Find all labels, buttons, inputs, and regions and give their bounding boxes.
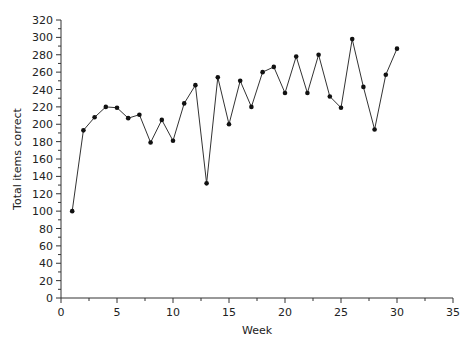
y-tick-label: 100 — [32, 205, 53, 218]
data-point-marker — [272, 65, 277, 70]
data-series — [70, 37, 399, 214]
y-axis: 0204060801001201401601802002202402602803… — [32, 14, 61, 305]
data-point-marker — [283, 91, 288, 96]
data-point-marker — [260, 70, 265, 75]
data-point-marker — [70, 209, 75, 214]
data-point-marker — [238, 79, 243, 84]
data-point-marker — [361, 85, 366, 90]
data-point-marker — [249, 105, 254, 110]
data-point-marker — [148, 140, 153, 145]
series-line — [72, 39, 397, 211]
data-point-marker — [384, 72, 389, 77]
y-tick-label: 320 — [32, 14, 53, 27]
data-point-marker — [182, 101, 187, 106]
x-axis: 05101520253035 — [58, 298, 461, 319]
data-point-marker — [81, 128, 86, 133]
x-tick-label: 5 — [114, 306, 121, 319]
x-tick-label: 0 — [58, 306, 65, 319]
x-axis-title: Week — [242, 324, 273, 337]
data-point-marker — [372, 127, 377, 132]
y-tick-label: 60 — [39, 240, 53, 253]
y-tick-label: 220 — [32, 101, 53, 114]
data-point-marker — [137, 112, 142, 117]
data-point-marker — [160, 118, 165, 123]
y-tick-label: 140 — [32, 170, 53, 183]
data-point-marker — [204, 181, 209, 186]
x-tick-label: 25 — [334, 306, 348, 319]
y-tick-label: 180 — [32, 136, 53, 149]
data-point-marker — [115, 105, 120, 110]
data-point-marker — [171, 138, 176, 143]
y-tick-label: 120 — [32, 188, 53, 201]
data-point-marker — [92, 115, 97, 120]
y-tick-label: 300 — [32, 31, 53, 44]
data-point-marker — [395, 46, 400, 51]
data-point-marker — [216, 75, 221, 80]
y-tick-label: 160 — [32, 153, 53, 166]
y-tick-label: 240 — [32, 84, 53, 97]
data-point-marker — [316, 52, 321, 57]
y-tick-label: 280 — [32, 49, 53, 62]
y-tick-label: 20 — [39, 275, 53, 288]
data-point-marker — [328, 94, 333, 99]
data-point-marker — [227, 122, 232, 127]
data-point-marker — [294, 54, 299, 59]
data-point-marker — [104, 105, 109, 110]
y-axis-title: Total items correct — [11, 107, 24, 210]
x-tick-label: 30 — [390, 306, 404, 319]
x-tick-label: 10 — [166, 306, 180, 319]
x-tick-label: 15 — [222, 306, 236, 319]
x-tick-label: 35 — [446, 306, 460, 319]
line-chart: 0204060801001201401601802002202402602803… — [0, 0, 470, 351]
y-tick-label: 40 — [39, 257, 53, 270]
data-point-marker — [126, 116, 131, 121]
data-point-marker — [305, 91, 310, 96]
data-point-marker — [339, 105, 344, 110]
y-tick-label: 260 — [32, 66, 53, 79]
data-point-marker — [350, 37, 355, 42]
data-point-marker — [193, 83, 198, 88]
y-tick-label: 200 — [32, 118, 53, 131]
y-tick-label: 0 — [46, 292, 53, 305]
y-tick-label: 80 — [39, 223, 53, 236]
x-tick-label: 20 — [278, 306, 292, 319]
